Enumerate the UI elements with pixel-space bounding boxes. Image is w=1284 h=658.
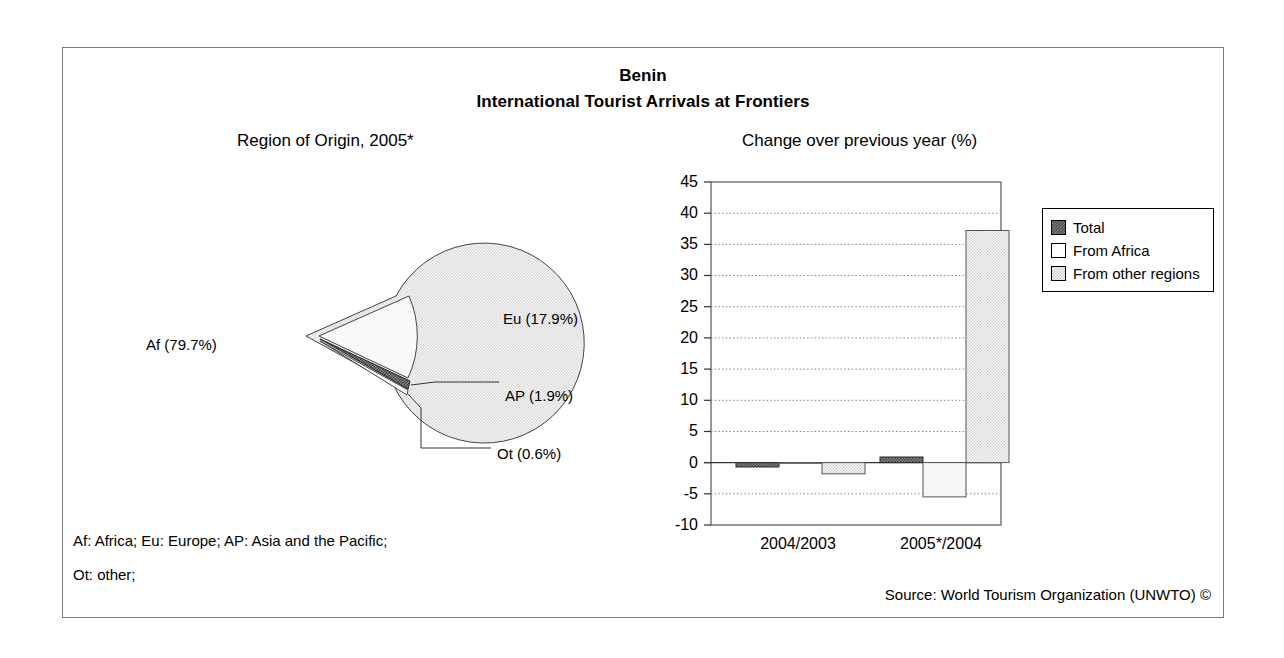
bar-2005-africa [923,463,966,497]
bar-2005-total [880,457,923,463]
y-tick-neg10: -10 [659,516,698,534]
y-tick-25: 25 [662,298,698,316]
bar-chart-panel: Change over previous year (%) [63,48,1223,608]
y-tick-neg5: -5 [662,485,698,503]
legend-item-from-africa[interactable]: From Africa [1051,242,1205,259]
footnote-other: Ot: other; [73,566,136,583]
y-tick-35: 35 [662,235,698,253]
y-axis-ticks [704,182,711,525]
x-tick-2004-2003: 2004/2003 [743,535,853,553]
footnote-abbreviations: Af: Africa; Eu: Europe; AP: Asia and the… [73,532,387,549]
legend-item-from-other-regions[interactable]: From other regions [1051,265,1205,282]
bar-chart-legend: Total From Africa From other regions [1042,208,1214,292]
bar-2004-africa [779,463,822,464]
y-tick-15: 15 [662,360,698,378]
figure-frame: Benin International Tourist Arrivals at … [62,47,1224,618]
bar-2004-total [736,463,779,467]
legend-label-from-africa: From Africa [1073,242,1150,259]
source-attribution: Source: World Tourism Organization (UNWT… [885,586,1211,603]
y-tick-40: 40 [662,204,698,222]
bar-2004-other [822,463,865,474]
legend-item-total[interactable]: Total [1051,219,1205,236]
y-tick-5: 5 [662,422,698,440]
legend-swatch-total-icon [1051,220,1066,235]
y-tick-10: 10 [662,391,698,409]
y-tick-45: 45 [662,173,698,191]
legend-label-from-other-regions: From other regions [1073,265,1200,282]
bar-2005-other [966,231,1009,463]
y-tick-20: 20 [662,329,698,347]
legend-swatch-from-other-regions-icon [1051,266,1066,281]
legend-swatch-from-africa-icon [1051,243,1066,258]
x-tick-2005-2004: 2005*/2004 [886,535,996,553]
bar-chart-graphic [63,48,1223,608]
y-tick-30: 30 [662,266,698,284]
legend-label-total: Total [1073,219,1105,236]
y-tick-0: 0 [662,454,698,472]
